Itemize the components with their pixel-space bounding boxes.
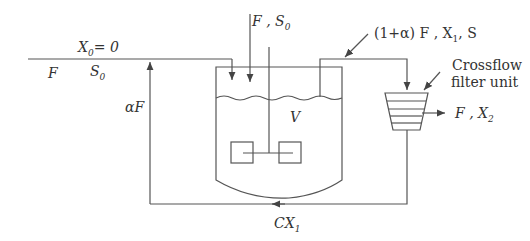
outlet-pointer — [345, 34, 368, 57]
recycle-line — [150, 130, 407, 204]
process-diagram: X0= 0 F S0 αF F , S0 V (1+α) F , X1, S C… — [0, 0, 530, 241]
filter-pointer — [424, 72, 440, 90]
recycle-flow-label: αF — [125, 99, 145, 115]
permeate-label: F , X2 — [454, 105, 494, 124]
inlet-f-label: F — [47, 65, 59, 81]
inlet-s-label: S0 — [90, 63, 106, 82]
filter-unit — [385, 93, 428, 130]
outlet-stream-label: (1+α) F , X1, S — [374, 25, 477, 44]
volume-label: V — [290, 109, 302, 125]
inlet-x-label: X0= 0 — [77, 39, 119, 58]
reactor-vessel — [216, 67, 342, 198]
outlet-line — [320, 59, 407, 97]
feed-label: F , S0 — [251, 13, 291, 32]
filter-title-1: Crossflow — [452, 57, 522, 73]
bottom-recycle-label: CX1 — [274, 215, 300, 234]
liquid-surface — [216, 96, 342, 100]
filter-title-2: filter unit — [451, 74, 518, 90]
